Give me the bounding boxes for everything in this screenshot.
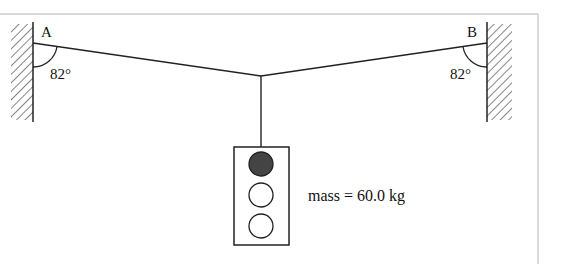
point-b-label: B xyxy=(467,25,477,40)
traffic-light xyxy=(234,147,289,245)
point-a-label: A xyxy=(41,25,52,40)
left-wall xyxy=(11,22,33,122)
mass-label: mass = 60.0 kg xyxy=(308,188,405,204)
light-yellow-icon xyxy=(249,183,273,207)
light-green-icon xyxy=(249,214,273,238)
traffic-light-diagram xyxy=(0,0,564,264)
angle-arc-a xyxy=(33,47,57,68)
right-wall xyxy=(487,22,512,122)
angle-b-label: 82° xyxy=(450,67,471,82)
angle-arc-b xyxy=(463,47,487,68)
light-red-icon xyxy=(249,152,273,176)
angle-a-label: 82° xyxy=(50,67,71,82)
